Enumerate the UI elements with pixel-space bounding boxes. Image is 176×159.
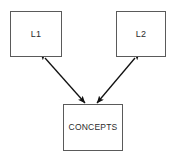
node-l1: L1 [10, 11, 62, 57]
node-l2-label: L2 [136, 30, 146, 39]
diagram-canvas: L1 L2 CONCEPTS [0, 0, 176, 159]
edge-l1-concepts [45, 58, 85, 103]
node-l2: L2 [116, 11, 166, 57]
node-l1-label: L1 [31, 30, 41, 39]
node-concepts: CONCEPTS [63, 104, 123, 151]
node-concepts-label: CONCEPTS [69, 123, 118, 132]
edge-l2-concepts [97, 58, 135, 103]
